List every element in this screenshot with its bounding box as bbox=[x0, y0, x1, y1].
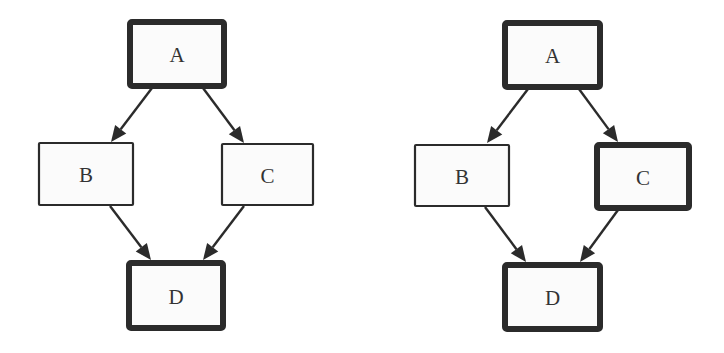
edge-line bbox=[213, 206, 244, 247]
node-a: A bbox=[130, 22, 224, 86]
edge-line bbox=[485, 207, 516, 249]
arrowhead-icon bbox=[511, 245, 526, 262]
node-label: A bbox=[169, 43, 185, 67]
diagram-canvas: ABCD ABCD bbox=[0, 0, 724, 353]
edge-line bbox=[121, 88, 152, 129]
edge-a-to-c bbox=[203, 88, 244, 143]
arrowhead-icon bbox=[203, 243, 218, 260]
edge-line bbox=[589, 210, 618, 249]
edge-a-to-b bbox=[487, 89, 528, 143]
node-label: D bbox=[168, 285, 183, 309]
node-d: D bbox=[505, 265, 600, 329]
right-graph: ABCD bbox=[415, 23, 689, 329]
edge-b-to-d bbox=[485, 207, 526, 262]
edge-line bbox=[203, 88, 234, 130]
edge-line bbox=[110, 206, 141, 247]
arrowhead-icon bbox=[136, 243, 151, 260]
node-label: A bbox=[545, 44, 561, 68]
arrowhead-icon bbox=[229, 126, 244, 143]
arrowhead-icon bbox=[580, 245, 595, 262]
node-d: D bbox=[129, 263, 223, 328]
edge-b-to-d bbox=[110, 206, 151, 260]
edge-line bbox=[497, 89, 528, 130]
node-c: C bbox=[597, 145, 689, 208]
node-c: C bbox=[222, 144, 313, 205]
arrowhead-icon bbox=[603, 125, 618, 142]
node-a: A bbox=[505, 23, 600, 87]
arrowhead-icon bbox=[111, 125, 126, 142]
edge-c-to-d bbox=[580, 210, 618, 262]
node-b: B bbox=[39, 143, 133, 205]
edge-a-to-b bbox=[111, 88, 152, 142]
edge-line bbox=[579, 89, 609, 129]
node-label: C bbox=[260, 164, 274, 188]
node-label: D bbox=[545, 286, 560, 310]
edge-a-to-c bbox=[579, 89, 618, 142]
node-label: B bbox=[79, 163, 93, 187]
node-label: B bbox=[455, 165, 469, 189]
left-graph: ABCD bbox=[39, 22, 313, 328]
arrowhead-icon bbox=[487, 126, 502, 143]
edge-c-to-d bbox=[203, 206, 244, 260]
node-b: B bbox=[415, 145, 509, 206]
node-label: C bbox=[636, 166, 650, 190]
